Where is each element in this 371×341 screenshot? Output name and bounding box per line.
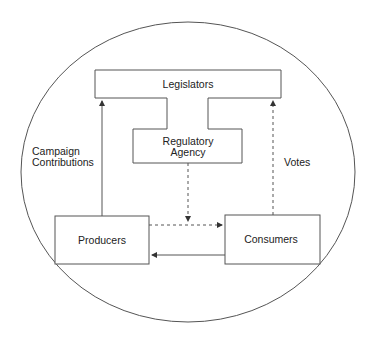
consumers-label: Consumers: [244, 233, 298, 245]
legislators-node: Legislators: [163, 78, 214, 90]
producers-node: Producers: [55, 216, 149, 264]
consumers-node: Consumers: [225, 215, 320, 264]
producers-label: Producers: [78, 234, 126, 246]
votes-label: Votes: [284, 156, 310, 168]
regulatory-agency-label-line2: Agency: [170, 146, 206, 158]
campaign-contributions-label-line2: Contributions: [32, 156, 94, 168]
diagram-canvas: Legislators Regulatory Agency Producers …: [0, 0, 371, 341]
legislators-label: Legislators: [163, 78, 214, 90]
